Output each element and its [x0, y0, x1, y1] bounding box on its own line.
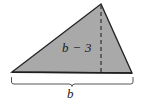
- triangle-shape: [12, 4, 132, 73]
- geometry-figure: b − 3 b: [0, 0, 143, 105]
- triangle-base-line: [12, 72, 132, 73]
- base-label: b: [67, 87, 74, 100]
- altitude-label: b − 3: [62, 41, 92, 54]
